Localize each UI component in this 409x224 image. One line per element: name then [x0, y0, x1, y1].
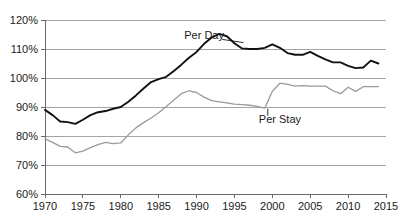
series-group: [45, 34, 378, 153]
y-axis-tick-label: 120%: [10, 14, 38, 26]
x-axis-tick-label: 2010: [336, 200, 360, 212]
x-axis-tick-label: 1990: [184, 200, 208, 212]
series-line-per-day: [45, 34, 378, 124]
x-axis-tick-label: 1985: [146, 200, 170, 212]
x-axis-tick-label: 2000: [260, 200, 284, 212]
series-line-per-stay: [45, 83, 378, 153]
x-axis-tick-label: 2005: [298, 200, 322, 212]
x-axis-tick-label: 1995: [222, 200, 246, 212]
y-axis-tick-label: 70%: [16, 159, 38, 171]
x-axis-tick-label: 1970: [33, 200, 57, 212]
y-axis-tick-label: 90%: [16, 101, 38, 113]
series-annotations: Per DayPer Stay: [184, 29, 301, 125]
gridlines-group: [45, 20, 386, 165]
x-axis-tick-label: 1975: [71, 200, 95, 212]
series-label-per-day: Per Day: [184, 29, 224, 41]
series-label-per-stay: Per Stay: [259, 113, 302, 125]
x-axis-tick-label: 1980: [109, 200, 133, 212]
x-axis-tick-label: 2015: [374, 200, 398, 212]
x-axis-tick-labels: 1970197519801985199019952000200520102015: [33, 200, 398, 212]
y-axis-tick-labels: 60%70%80%90%100%110%120%: [10, 14, 38, 200]
y-axis-tick-label: 60%: [16, 188, 38, 200]
chart-container: 60%70%80%90%100%110%120% 197019751980198…: [0, 0, 409, 224]
y-axis-tick-label: 80%: [16, 130, 38, 142]
axes-group: [41, 20, 386, 198]
y-axis-tick-label: 110%: [11, 43, 39, 55]
y-axis-tick-label: 100%: [10, 72, 38, 84]
line-chart: 60%70%80%90%100%110%120% 197019751980198…: [0, 0, 409, 224]
